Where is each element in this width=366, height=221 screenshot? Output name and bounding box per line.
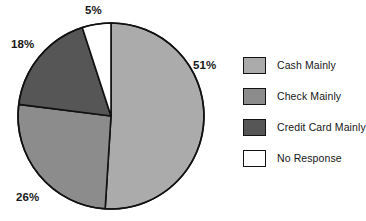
legend-label-credit-card-mainly: Credit Card Mainly xyxy=(277,122,366,133)
data-label-no-response: 5% xyxy=(85,5,102,17)
legend-swatch-credit-card-mainly xyxy=(243,119,266,136)
pie-chart-svg xyxy=(0,0,228,221)
pie-chart-plot-area: 51% 26% 18% 5% xyxy=(0,0,228,221)
legend-item-no-response[interactable]: No Response xyxy=(243,143,361,174)
legend-label-cash-mainly: Cash Mainly xyxy=(277,60,336,71)
legend-swatch-check-mainly xyxy=(243,88,266,105)
legend-label-no-response: No Response xyxy=(277,153,342,164)
pie-slice-cash-mainly[interactable] xyxy=(105,23,204,209)
data-label-credit-card-mainly: 18% xyxy=(11,39,34,51)
pie-slices xyxy=(18,23,204,209)
legend-item-credit-card-mainly[interactable]: Credit Card Mainly xyxy=(243,112,361,143)
legend-swatch-no-response xyxy=(243,150,266,167)
legend-swatch-cash-mainly xyxy=(243,57,266,74)
data-label-check-mainly: 26% xyxy=(16,192,39,204)
legend-item-cash-mainly[interactable]: Cash Mainly xyxy=(243,50,361,81)
data-label-cash-mainly: 51% xyxy=(193,60,216,72)
chart-legend: Cash Mainly Check Mainly Credit Card Mai… xyxy=(243,50,361,174)
legend-item-check-mainly[interactable]: Check Mainly xyxy=(243,81,361,112)
legend-label-check-mainly: Check Mainly xyxy=(277,91,341,102)
